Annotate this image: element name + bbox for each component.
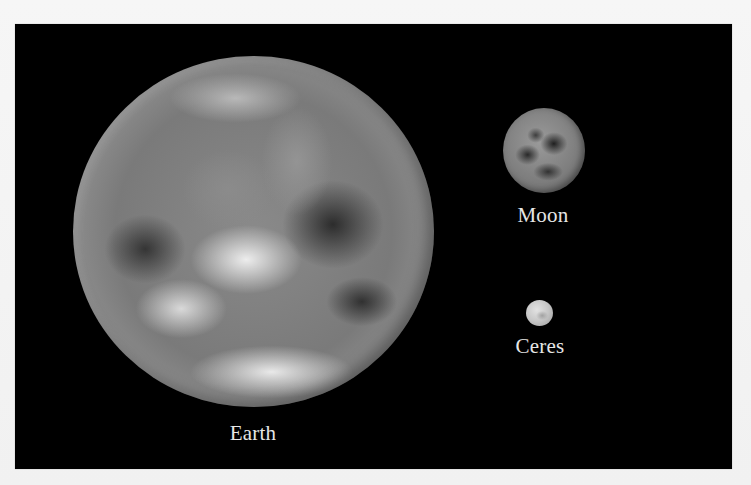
moon-image <box>503 108 585 193</box>
size-comparison-panel: Earth Moon Ceres <box>15 24 732 469</box>
ceres-image <box>526 300 553 326</box>
moon-label: Moon <box>483 205 603 226</box>
earth-label: Earth <box>193 423 313 444</box>
ceres-label: Ceres <box>480 336 600 357</box>
earth-image <box>73 56 434 407</box>
